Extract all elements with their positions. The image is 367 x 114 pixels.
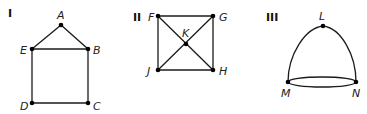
- vertex-label-j: J: [145, 65, 150, 78]
- vertex-j: [156, 68, 161, 73]
- figure-label-ii: II: [133, 11, 141, 24]
- vertex-label-d: D: [20, 100, 28, 113]
- vertex-label-e: E: [20, 44, 27, 57]
- vertex-k: [184, 42, 189, 47]
- vertex-label-c: C: [93, 100, 101, 113]
- edge-l-m-curve: [288, 26, 323, 82]
- vertex-m: [286, 80, 291, 85]
- figure-label-iii: III: [266, 11, 278, 24]
- figure-ii: II F G K J H: [133, 11, 228, 78]
- vertex-label-b: B: [93, 44, 101, 57]
- vertex-f: [156, 14, 161, 19]
- vertex-b: [86, 47, 91, 52]
- vertex-label-a: A: [56, 9, 65, 22]
- vertex-l: [321, 24, 326, 29]
- figure-iii: III L M N: [266, 10, 360, 100]
- vertex-e: [30, 47, 35, 52]
- figure-label-i: I: [8, 7, 12, 20]
- graph-diagrams: I A E B D C II F G K J H: [0, 0, 367, 114]
- edge-a-b: [61, 25, 88, 49]
- vertex-label-n: N: [352, 87, 360, 100]
- edge-l-n-curve: [323, 26, 356, 82]
- vertex-label-g: G: [219, 11, 228, 24]
- vertex-d: [30, 101, 35, 106]
- vertex-label-l: L: [319, 10, 325, 23]
- vertex-label-h: H: [219, 65, 227, 78]
- vertex-h: [211, 68, 216, 73]
- edge-a-e: [32, 25, 61, 49]
- vertex-n: [354, 80, 359, 85]
- vertex-g: [211, 14, 216, 19]
- vertex-label-k: K: [182, 27, 190, 40]
- vertex-label-m: M: [281, 87, 291, 100]
- vertex-label-f: F: [148, 11, 155, 24]
- figure-i: I A E B D C: [8, 7, 101, 113]
- vertex-a: [59, 23, 64, 28]
- vertex-c: [86, 101, 91, 106]
- edge-m-n-loop: [288, 77, 356, 87]
